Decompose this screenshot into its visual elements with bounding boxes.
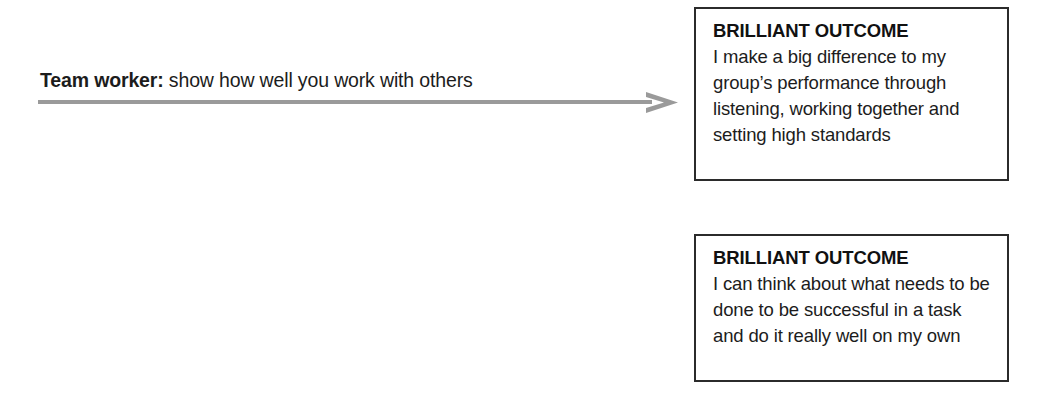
outcome-body: I make a big difference to my group’s pe… <box>713 44 993 148</box>
brilliant-outcome-box: BRILLIANT OUTCOME I can think about what… <box>694 234 1009 382</box>
outcome-title: BRILLIANT OUTCOME <box>713 18 993 44</box>
outcome-title: BRILLIANT OUTCOME <box>713 245 993 271</box>
skill-outcome-row: Independent enquirer: worked independent… <box>0 225 1053 415</box>
arrow-right-glyph <box>38 90 678 116</box>
skill-outcome-row: Team worker: show how well you work with… <box>0 0 1053 205</box>
arrow-right-icon <box>38 90 678 116</box>
brilliant-outcome-box: BRILLIANT OUTCOME I make a big differenc… <box>694 7 1009 181</box>
outcome-body: I can think about what needs to be done … <box>713 271 993 349</box>
skill-label: Team worker: <box>40 69 164 91</box>
document-page: Team worker: show how well you work with… <box>0 0 1053 415</box>
skill-description: show how well you work with others <box>164 69 473 91</box>
